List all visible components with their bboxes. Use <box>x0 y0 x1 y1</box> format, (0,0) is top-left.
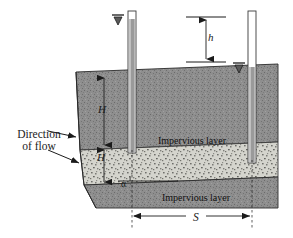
cross-section-drawing <box>0 0 293 238</box>
upper-thickness-label: H <box>98 104 106 116</box>
impervious-lower-label: Impervious layer <box>162 193 230 204</box>
piezometer-right <box>248 11 256 163</box>
dimension-h <box>186 17 226 62</box>
figure-canvas: Direction of flow h H H α S Impervious l… <box>0 0 293 238</box>
angle-alpha-label: α <box>121 180 126 190</box>
layer-thickness-label: H <box>97 152 105 164</box>
impervious-upper-label: Impervious layer <box>158 136 226 147</box>
water-level-marker-left <box>112 15 124 25</box>
piezometer-left <box>128 11 136 153</box>
direction-of-flow-label: Direction of flow <box>6 128 72 152</box>
spacing-label: S <box>193 211 199 223</box>
direction-line-1: Direction <box>6 128 72 140</box>
head-loss-label: h <box>208 32 214 44</box>
direction-line-2: of flow <box>6 140 72 152</box>
